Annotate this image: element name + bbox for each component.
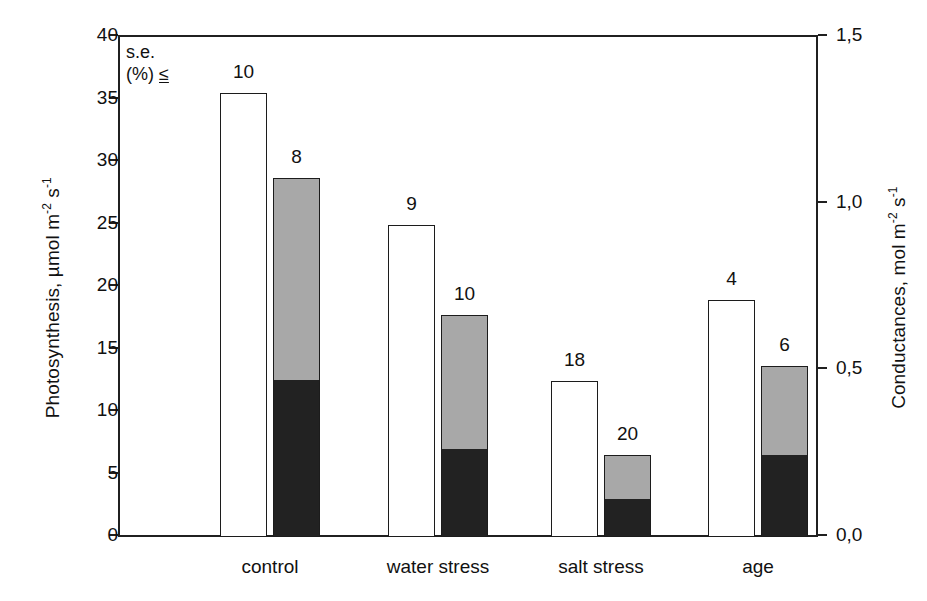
bar-se-label: 18 xyxy=(564,349,585,371)
bar-se-label: 6 xyxy=(779,334,790,356)
y-axis-right-title-main: Conductances, mol m xyxy=(888,223,909,409)
less-than-or-equal-icon: ≤ xyxy=(159,64,169,84)
y-axis-right-title-mid: s xyxy=(888,197,909,212)
y-axis-right-title-sup1: -2 xyxy=(886,212,900,223)
y-axis-left-title: Photosynthesis, µmol m-2 s-1 xyxy=(40,88,63,508)
bar-conductance-stacked xyxy=(604,455,651,538)
axis-top-spine xyxy=(118,35,818,37)
bar-se-label: 9 xyxy=(406,193,417,215)
y-axis-right-tick xyxy=(818,367,827,369)
plot-area: 0510152025303540 0,00,51,01,5 1089101820… xyxy=(118,35,818,537)
y-axis-right-tick-label: 0,5 xyxy=(836,357,862,379)
bar-photosynthesis xyxy=(708,300,755,538)
y-axis-left-tick-label: 35 xyxy=(84,87,118,109)
y-axis-left-tick-label: 10 xyxy=(84,399,118,421)
y-axis-left-title-sup1: -2 xyxy=(40,203,54,214)
bar-segment-grey xyxy=(442,316,487,449)
y-axis-left-tick-label: 0 xyxy=(84,524,118,546)
y-axis-right-tick xyxy=(818,534,827,536)
y-axis-right-tick xyxy=(818,34,827,36)
x-axis-category-label: salt stress xyxy=(558,556,644,578)
y-axis-left-tick-label: 15 xyxy=(84,337,118,359)
se-annotation-line2: (%) ≤ xyxy=(126,64,169,86)
y-axis-right-title: Conductances, mol m-2 s-1 xyxy=(886,88,909,508)
standard-error-annotation: s.e. (%) ≤ xyxy=(126,42,169,86)
bar-se-label: 20 xyxy=(617,423,638,445)
y-axis-right-tick-label: 0,0 xyxy=(836,524,862,546)
bar-segment-black xyxy=(762,455,807,536)
y-axis-left-title-sup2: -1 xyxy=(40,177,54,188)
se-annotation-percent: (%) xyxy=(126,64,159,84)
y-axis-left-tick-label: 5 xyxy=(84,462,118,484)
bar-segment-grey xyxy=(762,367,807,455)
y-axis-right-title-sup2: -1 xyxy=(886,186,900,197)
y-axis-left-title-main: Photosynthesis, µmol m xyxy=(42,214,63,418)
y-axis-right-tick-label: 1,5 xyxy=(836,24,862,46)
x-axis-category-label: control xyxy=(241,556,298,578)
bar-se-label: 4 xyxy=(726,268,737,290)
bar-conductance-stacked xyxy=(761,366,808,537)
y-axis-right-tick-label: 1,0 xyxy=(836,191,862,213)
y-axis-left-tick-label: 20 xyxy=(84,274,118,296)
bar-se-label: 10 xyxy=(233,61,254,83)
bar-photosynthesis xyxy=(551,381,598,537)
bar-segment-black xyxy=(605,499,650,537)
y-axis-left-tick-label: 25 xyxy=(84,212,118,234)
bar-se-label: 8 xyxy=(291,146,302,168)
bar-se-label: 10 xyxy=(454,283,475,305)
bar-conductance-stacked xyxy=(441,315,488,538)
bar-photosynthesis xyxy=(388,225,435,538)
y-axis-left-title-mid: s xyxy=(42,188,63,203)
x-axis-category-label: age xyxy=(742,556,774,578)
y-axis-left-tick-label: 40 xyxy=(84,24,118,46)
bar-conductance-stacked xyxy=(273,178,320,537)
bar-segment-black xyxy=(274,380,319,536)
x-axis-category-label: water stress xyxy=(387,556,489,578)
axis-right-spine xyxy=(816,35,818,537)
bar-segment-grey xyxy=(274,179,319,380)
y-axis-right-tick xyxy=(818,201,827,203)
se-annotation-line1: s.e. xyxy=(126,42,169,64)
axis-left-spine xyxy=(118,35,120,537)
bar-segment-black xyxy=(442,449,487,537)
y-axis-left-tick-label: 30 xyxy=(84,149,118,171)
bar-chart-figure: Photosynthesis, µmol m-2 s-1 Conductance… xyxy=(0,0,927,601)
bar-photosynthesis xyxy=(220,93,267,537)
bar-segment-grey xyxy=(605,456,650,499)
